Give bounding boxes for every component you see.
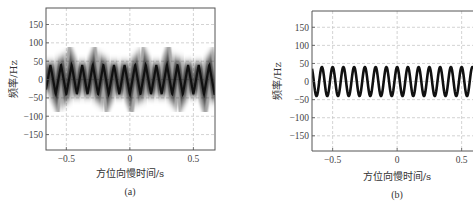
y-tick-label: −100 [23, 112, 43, 122]
x-tick-label: 0 [127, 154, 132, 164]
y-tick-label: −50 [294, 95, 309, 105]
y-tick-label: 0 [38, 75, 43, 85]
y-tick-label: −50 [28, 93, 43, 103]
y-tick-label: 50 [300, 59, 310, 69]
x-tick-label: 0 [395, 155, 400, 165]
x-tick-label: −0.5 [58, 154, 75, 164]
figure: 150100500−50−100−150−0.500.5 频率/Hz 方位向慢时… [0, 0, 473, 207]
panel-b: 150100500−50−100−150−0.500.5 频率/Hz 方位向慢时… [271, 11, 473, 201]
y-tick-label: −150 [23, 130, 43, 140]
panel-b-x-axis-label: 方位向慢时间/s [363, 170, 432, 182]
panel-a: 150100500−50−100−150−0.500.5 频率/Hz 方位向慢时… [7, 8, 215, 198]
y-tick-label: −100 [289, 113, 309, 123]
panel-a-data [46, 65, 215, 94]
x-tick-label: −0.5 [324, 155, 341, 165]
x-tick-label: 0.5 [456, 155, 468, 165]
panel-a-caption: (a) [124, 186, 135, 198]
y-tick-label: 100 [29, 38, 44, 48]
y-tick-label: 100 [295, 41, 310, 51]
x-tick-label: 0.5 [187, 154, 199, 164]
y-tick-label: −150 [289, 131, 309, 141]
panel-b-caption: (b) [391, 189, 403, 201]
panel-a-y-axis-label: 频率/Hz [7, 60, 19, 97]
panel-a-x-axis-label: 方位向慢时间/s [96, 167, 165, 179]
y-tick-label: 150 [29, 20, 44, 30]
y-tick-label: 50 [34, 57, 44, 67]
panel-b-y-axis-label: 频率/Hz [271, 62, 283, 99]
y-tick-label: 150 [295, 23, 310, 33]
y-tick-label: 0 [304, 77, 309, 87]
